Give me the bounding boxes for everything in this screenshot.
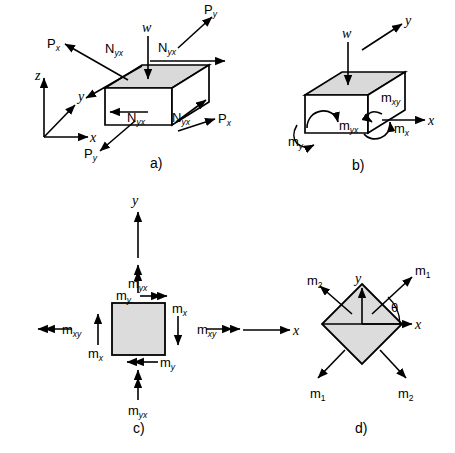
panel-c-mx-right-label: mx: [172, 301, 188, 318]
panel-b-tag: b): [352, 157, 364, 173]
panel-d-m1-lower-left-arrow: [318, 350, 345, 378]
panel-c-my-bottom-label: my: [160, 355, 176, 372]
panel-d-m1-lower-left-label: m1: [310, 386, 326, 403]
panel-b-my-label: my: [288, 134, 304, 151]
panel-c-axis-x-label: x: [292, 323, 300, 338]
panel-c-plate-element: [112, 303, 165, 355]
technical-diagram: z y x w Px Nyx Nyx Py: [0, 0, 455, 453]
panel-d-axis-y-label: y: [353, 271, 362, 286]
panel-d-m2-lower-right-label: m2: [398, 386, 414, 403]
panel-c-mxy-left-label: mxy: [62, 322, 82, 339]
panel-a-nyx-back-left-label: Nyx: [105, 41, 124, 58]
panel-b-axis-y-label: y: [403, 13, 412, 28]
panel-a-nyx-back-right-label: Nyx: [158, 40, 177, 57]
panel-a-axis-x-label: x: [89, 130, 97, 145]
panel-c-myx-bottom-label: myx: [128, 403, 148, 420]
panel-d-theta-label: θ: [391, 300, 398, 315]
panel-a-axes: z y x: [34, 68, 97, 145]
panel-b-axis-x-label: x: [427, 113, 435, 128]
panel-c-mxy-right-label: mxy: [197, 322, 217, 339]
panel-c-axis-y-label: y: [130, 193, 139, 208]
panel-c-tag: c): [133, 420, 145, 436]
panel-a-px-right-label: Px: [218, 111, 232, 128]
panel-a-load-label: w: [142, 20, 152, 35]
panel-a-tag: a): [150, 155, 162, 171]
panel-d-axis-x-label: x: [414, 317, 422, 332]
panel-d-m1-upper-right-label: m1: [415, 263, 431, 280]
panel-d-m2-upper-left-label: m2: [307, 273, 323, 290]
panel-c-myx-top-label: myx: [128, 276, 148, 293]
panel-a-axis-z-label: z: [34, 68, 41, 83]
panel-a-px-left-label: Px: [47, 36, 61, 53]
panel-a-py-top-label: Py: [204, 2, 218, 19]
panel-a-axis-y-label: y: [76, 89, 85, 104]
panel-c: y x myx my mxy mx mx: [38, 193, 300, 436]
panel-a-py-top-arrow: [178, 17, 212, 48]
panel-b-axis-y-arrow: [362, 24, 402, 50]
panel-b-load-label: w: [342, 26, 352, 41]
panel-a: z y x w Px Nyx Nyx Py: [34, 2, 232, 171]
panel-d-tag: d): [355, 420, 367, 436]
panel-b: y x w my myx mxy mx b): [288, 13, 435, 173]
panel-b-mx-label: mx: [394, 121, 410, 138]
panel-a-py-bottom-label: Py: [84, 146, 98, 163]
panel-d-m2-lower-right-arrow: [380, 350, 406, 378]
panel-c-mx-left-label: mx: [88, 346, 104, 363]
panel-d: y x m1 m2 m1 m2 θ d): [307, 263, 431, 436]
figure-root: z y x w Px Nyx Nyx Py: [0, 0, 455, 453]
